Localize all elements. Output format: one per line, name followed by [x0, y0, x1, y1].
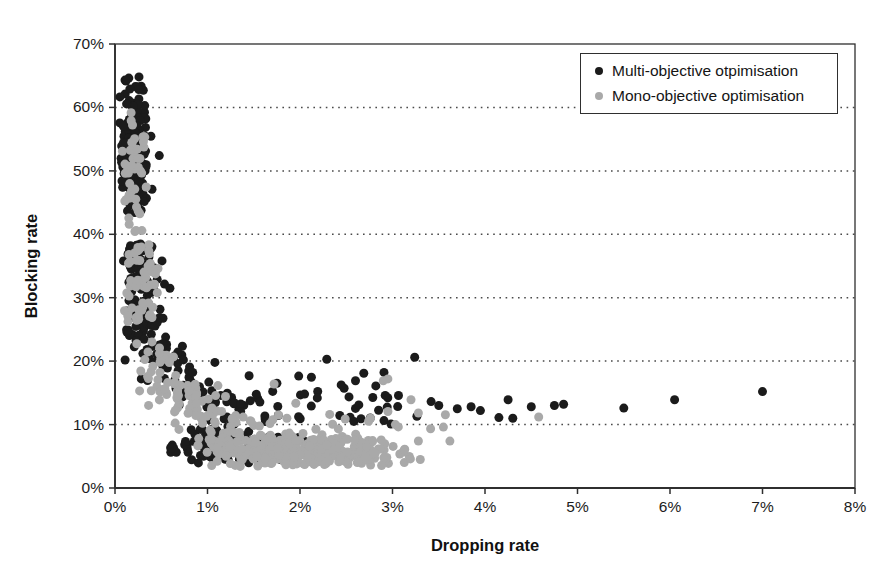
x-axis-tick-label: 0% — [85, 498, 145, 516]
x-axis-tick-label: 8% — [825, 498, 885, 516]
x-axis-tick-label: 7% — [733, 498, 793, 516]
x-axis-tick-label: 3% — [363, 498, 423, 516]
x-axis-tick-label: 4% — [455, 498, 515, 516]
x-axis-tick-label: 1% — [178, 498, 238, 516]
legend-entry-mono-objective: Mono-objective optimisation — [595, 87, 837, 105]
x-axis-tick-label: 2% — [270, 498, 330, 516]
y-axis-title: Blocking rate — [22, 214, 41, 319]
y-axis-tick-label: 70% — [38, 35, 104, 53]
y-axis-tick-label: 30% — [38, 289, 104, 307]
y-axis-tick-label: 50% — [38, 162, 104, 180]
legend-label-mono-objective: Mono-objective optimisation — [612, 87, 804, 105]
scatter-chart-figure: 0%10%20%30%40%50%60%70% 0%1%2%3%4%5%6%7%… — [0, 0, 891, 581]
y-axis-tick-label: 0% — [38, 479, 104, 497]
legend-label-multi-objective: Multi-objective otpimisation — [612, 62, 798, 80]
mono-objective-marker-icon — [595, 92, 603, 100]
y-axis-tick-label: 20% — [38, 352, 104, 370]
y-axis-tick-label: 60% — [38, 98, 104, 116]
legend: Multi-objective otpimisation Mono-object… — [580, 53, 838, 114]
multi-objective-marker-icon — [595, 67, 603, 75]
x-axis-tick-label: 6% — [640, 498, 700, 516]
legend-entry-multi-objective: Multi-objective otpimisation — [595, 62, 837, 80]
y-axis-tick-label: 40% — [38, 225, 104, 243]
y-axis-tick-label: 10% — [38, 416, 104, 434]
x-axis-title: Dropping rate — [431, 536, 539, 555]
x-axis-tick-label: 5% — [548, 498, 608, 516]
